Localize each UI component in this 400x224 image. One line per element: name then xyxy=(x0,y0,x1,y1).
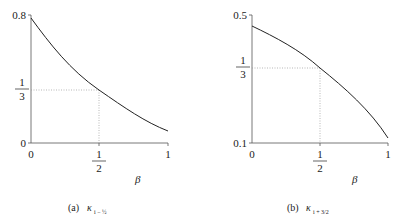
ytick-top: 0.5 xyxy=(233,9,247,21)
xtick-right: 1 xyxy=(385,148,391,160)
caption-b-symbol: κ xyxy=(306,202,311,213)
ytick-mid-den: 3 xyxy=(240,68,246,80)
xtick-left: 0 xyxy=(249,148,255,160)
caption-a-sub: i − ½ xyxy=(94,209,107,215)
xtick-mid-den: 2 xyxy=(96,162,102,174)
figure: 0.8 1 3 0 0 1 2 1 β (a) κ i − ½ 0.5 1 3 … xyxy=(0,0,400,224)
ytick-mid-num: 1 xyxy=(19,76,25,88)
caption-b-prefix: (b) xyxy=(287,202,299,214)
x-axis-label: β xyxy=(351,173,358,185)
x-axis-label: β xyxy=(134,173,141,185)
panel-b: 0.5 1 3 0.1 0 1 2 1 β (b) κ i + 3/2 xyxy=(233,9,391,215)
caption-b-sub: i + 3/2 xyxy=(313,209,329,215)
panel-a: 0.8 1 3 0 0 1 2 1 β (a) κ i − ½ xyxy=(12,9,171,215)
ytick-bottom: 0 xyxy=(21,137,27,149)
xtick-mid-num: 1 xyxy=(317,148,323,160)
ytick-top: 0.8 xyxy=(12,9,26,21)
caption-a-prefix: (a) xyxy=(68,202,79,214)
xtick-left: 0 xyxy=(28,148,34,160)
xtick-mid-num: 1 xyxy=(96,148,102,160)
xtick-mid-den: 2 xyxy=(317,162,323,174)
ytick-mid-den: 3 xyxy=(19,90,25,102)
xtick-right: 1 xyxy=(165,148,171,160)
ytick-bottom: 0.1 xyxy=(233,137,247,149)
ytick-mid-num: 1 xyxy=(240,54,246,66)
curve-a xyxy=(31,18,168,131)
caption-a-symbol: κ xyxy=(87,202,92,213)
